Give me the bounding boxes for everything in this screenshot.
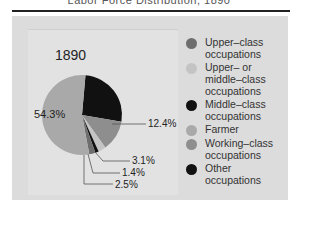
pie-slice	[82, 75, 122, 122]
legend-item-working-class: Working–class occupations	[186, 137, 296, 161]
legend-dot-icon	[186, 139, 197, 150]
legend-dot-icon	[186, 38, 197, 49]
label-upper-middle: 3.1%	[132, 155, 155, 166]
label-farmer: 54.3%	[34, 108, 65, 120]
label-upper-class: 2.5%	[115, 179, 138, 190]
leader-1-4	[88, 154, 120, 173]
leader-3-1	[95, 152, 130, 161]
legend: Upper–class occupations Upper– or middle…	[186, 36, 296, 187]
label-middle-class: 1.4%	[122, 167, 145, 178]
legend-dot-icon	[186, 63, 197, 74]
legend-item-farmer: Farmer	[186, 123, 296, 136]
legend-dot-icon	[186, 164, 197, 175]
leader-2-5	[84, 155, 113, 184]
legend-item-upper-middle: Upper– or middle–class occupations	[186, 61, 296, 97]
legend-dot-icon	[186, 125, 197, 136]
legend-item-middle-class: Middle–class occupations	[186, 98, 296, 122]
label-working-class: 12.4%	[148, 118, 176, 129]
legend-item-upper-class: Upper–class occupations	[186, 36, 296, 60]
legend-dot-icon	[186, 100, 197, 111]
legend-item-other: Other occupations	[186, 162, 296, 186]
